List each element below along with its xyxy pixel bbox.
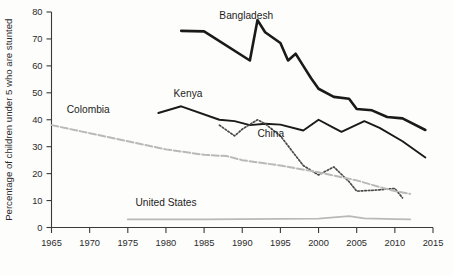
series-label-bangladesh: Bangladesh (219, 10, 273, 21)
y-axis-title-text: Percentage of children under 5 who are s… (3, 19, 14, 221)
x-tick-label: 1970 (79, 238, 100, 248)
y-axis-title: Percentage of children under 5 who are s… (3, 19, 14, 221)
x-tick-label: 1995 (270, 238, 291, 248)
y-tick-label: 40 (32, 115, 42, 125)
y-tick-label: 80 (32, 7, 42, 17)
x-axis: 1965197019751980198519901995200020052010… (41, 228, 443, 248)
x-tick-label: 2010 (385, 238, 406, 248)
series-label-kenya: Kenya (174, 88, 203, 99)
data-series-group (52, 20, 426, 219)
series-line-united-states (128, 216, 410, 219)
series-line-colombia (52, 125, 411, 194)
series-label-china: China (258, 128, 285, 139)
x-tick-label: 1980 (156, 238, 177, 248)
y-tick-label: 0 (37, 223, 42, 233)
y-tick-label: 20 (32, 169, 42, 179)
y-tick-label: 60 (32, 61, 42, 71)
y-axis: 01020304050607080 (32, 7, 51, 233)
y-tick-label: 50 (32, 88, 42, 98)
stunting-line-chart: 01020304050607080 1965197019751980198519… (0, 0, 453, 276)
x-tick-label: 2000 (308, 238, 329, 248)
x-tick-label: 1965 (41, 238, 62, 248)
y-tick-label: 30 (32, 142, 42, 152)
series-label-colombia: Colombia (67, 104, 110, 115)
x-tick-label: 1975 (117, 238, 138, 248)
series-line-bangladesh (181, 20, 425, 130)
y-tick-label: 70 (32, 34, 42, 44)
series-label-united-states: United States (135, 197, 196, 208)
y-tick-label: 10 (32, 196, 42, 206)
chart-plot-area: 01020304050607080 1965197019751980198519… (0, 0, 453, 276)
x-tick-label: 1985 (194, 238, 215, 248)
x-tick-label: 1990 (232, 238, 253, 248)
x-tick-label: 2015 (423, 238, 444, 248)
x-tick-label: 2005 (346, 238, 367, 248)
